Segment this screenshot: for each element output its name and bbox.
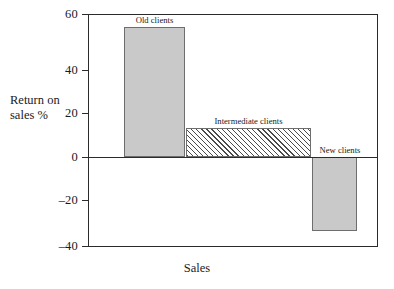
bar-intermediate-clients[interactable] bbox=[186, 128, 311, 157]
y-tick-mark-neg20 bbox=[82, 200, 89, 201]
y-tick-label-0-wrap: 0 bbox=[30, 151, 78, 164]
y-tick-label-neg40-wrap: –40 bbox=[30, 240, 78, 253]
bar-label-intermediate-clients: Intermediate clients bbox=[186, 116, 311, 126]
bar-label-new-clients: New clients bbox=[310, 145, 370, 155]
y-tick-label-40: 40 bbox=[30, 64, 78, 77]
y-axis-title-line-1: Return on bbox=[10, 93, 90, 108]
y-tick-label-neg20-wrap: –20 bbox=[30, 194, 78, 207]
y-tick-label-60-wrap: 60 bbox=[30, 8, 78, 21]
y-tick-label-neg20: –20 bbox=[30, 194, 78, 207]
chart-container: 60 40 20 0 –20 –40 Return on sales % Old… bbox=[0, 0, 394, 289]
y-tick-mark-60 bbox=[82, 14, 89, 15]
bar-old-clients[interactable] bbox=[124, 27, 185, 157]
y-tick-mark-neg40 bbox=[82, 246, 89, 247]
y-tick-label-60: 60 bbox=[30, 8, 78, 21]
y-tick-label-0: 0 bbox=[30, 151, 78, 164]
y-axis-title-line-2: sales % bbox=[10, 108, 90, 123]
y-tick-label-neg40: –40 bbox=[30, 240, 78, 253]
y-tick-label-40-wrap: 40 bbox=[30, 64, 78, 77]
zero-baseline bbox=[88, 157, 378, 159]
x-axis-title: Sales bbox=[0, 261, 394, 275]
y-axis-title: Return on sales % bbox=[10, 93, 90, 123]
bar-new-clients[interactable] bbox=[312, 157, 357, 231]
y-tick-mark-40 bbox=[82, 70, 89, 71]
bar-label-old-clients: Old clients bbox=[124, 15, 185, 25]
